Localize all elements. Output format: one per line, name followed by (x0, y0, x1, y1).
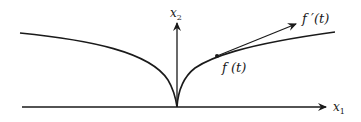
x2-axis-label: x2 (170, 6, 182, 22)
diagram-canvas: x2 x1 f ′(t) f (t) (0, 0, 361, 122)
curve-right-branch (177, 32, 335, 107)
tangent-label: f ′(t) (301, 11, 329, 26)
point-f-t (215, 54, 219, 58)
point-label: f (t) (221, 60, 246, 75)
x1-axis-label: x1 (333, 100, 345, 116)
cusp-curve-diagram: x2 x1 f ′(t) f (t) (0, 0, 361, 122)
curve-left-branch (20, 33, 177, 107)
